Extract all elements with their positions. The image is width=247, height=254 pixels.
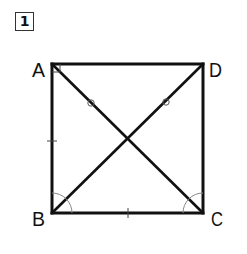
vertex-label-a: A bbox=[32, 59, 46, 81]
vertex-label-c: C bbox=[211, 208, 223, 230]
vertex-label-b: B bbox=[32, 208, 45, 230]
vertex-label-d: D bbox=[209, 59, 222, 81]
square-diagram: A D B C bbox=[0, 0, 247, 254]
